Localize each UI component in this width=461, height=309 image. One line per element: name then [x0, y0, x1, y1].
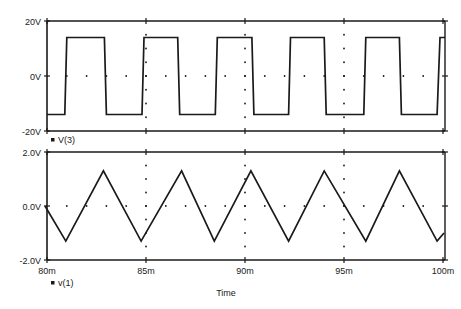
x-tick-label: 90m	[236, 266, 254, 276]
grid-dot	[145, 75, 147, 77]
grid-dot	[343, 61, 345, 63]
grid-dot	[264, 75, 266, 77]
grid-dot	[145, 246, 147, 248]
grid-dot	[244, 219, 246, 221]
grid-dot	[66, 205, 68, 207]
grid-dot	[145, 89, 147, 91]
grid-dot	[165, 205, 167, 207]
grid-dot	[145, 219, 147, 221]
grid-dot	[224, 75, 226, 77]
grid-dot	[205, 75, 207, 77]
grid-dot	[244, 75, 246, 77]
grid-dot	[422, 75, 424, 77]
grid-dot	[145, 34, 147, 36]
y-tick-label: 20V	[25, 17, 41, 27]
grid-dot	[145, 205, 147, 207]
grid-dot	[185, 75, 187, 77]
y-tick-label: -20V	[22, 127, 41, 137]
grid-dot	[244, 48, 246, 50]
grid-dot	[343, 89, 345, 91]
x-tick-label: 100m	[432, 266, 455, 276]
grid-dot	[244, 89, 246, 91]
grid-dot	[284, 205, 286, 207]
grid-dot	[165, 75, 167, 77]
legend-label: V(3)	[58, 135, 75, 145]
grid-dot	[383, 75, 385, 77]
x-tick-label: 95m	[335, 266, 353, 276]
grid-dot	[125, 75, 127, 77]
grid-dot	[343, 192, 345, 194]
grid-dot	[224, 205, 226, 207]
grid-dot	[185, 205, 187, 207]
legend-marker	[51, 281, 55, 285]
grid-dot	[106, 205, 108, 207]
grid-dot	[343, 246, 345, 248]
grid-dot	[145, 61, 147, 63]
y-tick-label: 0V	[30, 72, 41, 82]
grid-dot	[145, 103, 147, 105]
grid-dot	[343, 178, 345, 180]
x-axis-title: Time	[216, 288, 236, 298]
grid-dot	[323, 205, 325, 207]
y-tick-label: 0.0V	[22, 202, 41, 212]
grid-dot	[145, 48, 147, 50]
grid-dot	[86, 205, 88, 207]
grid-dot	[343, 48, 345, 50]
grid-dot	[304, 75, 306, 77]
legend-label: v(1)	[58, 278, 74, 288]
grid-dot	[403, 205, 405, 207]
grid-dot	[343, 219, 345, 221]
grid-dot	[422, 205, 424, 207]
grid-dot	[244, 205, 246, 207]
grid-dot	[145, 116, 147, 118]
y-tick-label: -2.0V	[19, 256, 41, 266]
grid-dot	[403, 75, 405, 77]
grid-dot	[244, 116, 246, 118]
grid-dot	[244, 246, 246, 248]
grid-dot	[145, 178, 147, 180]
waveform-plot: 20V0V-20VV(3)2.0V0.0V-2.0Vv(1)80m85m90m9…	[0, 0, 461, 309]
grid-dot	[264, 205, 266, 207]
grid-dot	[343, 165, 345, 167]
bottom-panel: 2.0V0.0V-2.0Vv(1)	[19, 148, 448, 289]
grid-dot	[244, 192, 246, 194]
x-tick-label: 85m	[137, 266, 155, 276]
grid-dot	[304, 205, 306, 207]
grid-dot	[343, 75, 345, 77]
grid-dot	[363, 205, 365, 207]
grid-dot	[244, 165, 246, 167]
chart-figure: 20V0V-20VV(3)2.0V0.0V-2.0Vv(1)80m85m90m9…	[0, 0, 461, 309]
grid-dot	[343, 34, 345, 36]
y-tick-label: 2.0V	[22, 148, 41, 158]
grid-dot	[145, 192, 147, 194]
grid-dot	[244, 34, 246, 36]
grid-dot	[205, 205, 207, 207]
grid-dot	[86, 75, 88, 77]
legend-marker	[51, 138, 55, 142]
grid-dot	[244, 61, 246, 63]
grid-dot	[343, 103, 345, 105]
grid-dot	[125, 205, 127, 207]
grid-dot	[244, 103, 246, 105]
grid-dot	[284, 75, 286, 77]
grid-dot	[244, 232, 246, 234]
grid-dot	[343, 232, 345, 234]
top-panel: 20V0V-20VV(3)	[22, 17, 448, 146]
grid-dot	[145, 165, 147, 167]
x-tick-label: 80m	[38, 266, 56, 276]
grid-dot	[343, 116, 345, 118]
